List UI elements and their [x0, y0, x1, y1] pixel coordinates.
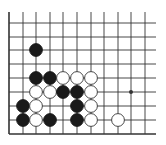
white-stone: [71, 72, 84, 85]
stones: [17, 44, 125, 127]
white-stone: [112, 114, 125, 127]
white-stone: [85, 100, 98, 113]
white-stone: [30, 100, 43, 113]
black-stone: [71, 100, 84, 113]
black-stone: [71, 86, 84, 99]
black-stone: [44, 114, 57, 127]
white-stone: [44, 86, 57, 99]
black-stone: [44, 72, 57, 85]
white-stone: [30, 114, 43, 127]
white-stone: [30, 86, 43, 99]
black-stone: [17, 114, 30, 127]
black-stone: [30, 72, 43, 85]
white-stone: [57, 72, 70, 85]
white-stone: [85, 72, 98, 85]
star-point: [129, 90, 133, 94]
go-board: [0, 0, 166, 145]
white-stone: [85, 114, 98, 127]
black-stone: [30, 44, 43, 57]
white-stone: [85, 86, 98, 99]
black-stone: [71, 114, 84, 127]
black-stone: [17, 100, 30, 113]
star-points: [129, 90, 133, 94]
black-stone: [57, 86, 70, 99]
